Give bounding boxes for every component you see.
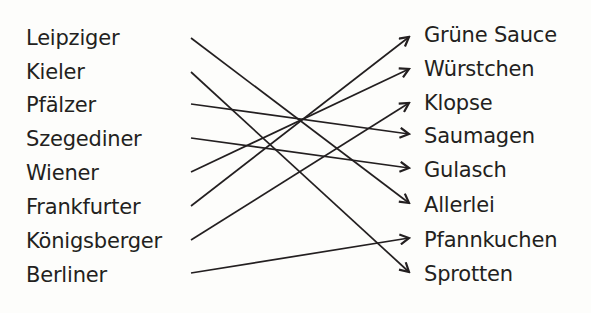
arrow-pfaelzer-saumagen [191,104,409,134]
arrow-berliner-pfannkuchen [191,238,409,273]
arrow-szegediner-gulasch [191,138,409,168]
arrow-koenigsberger-klopse [191,103,409,240]
connection-arrows [0,0,591,313]
